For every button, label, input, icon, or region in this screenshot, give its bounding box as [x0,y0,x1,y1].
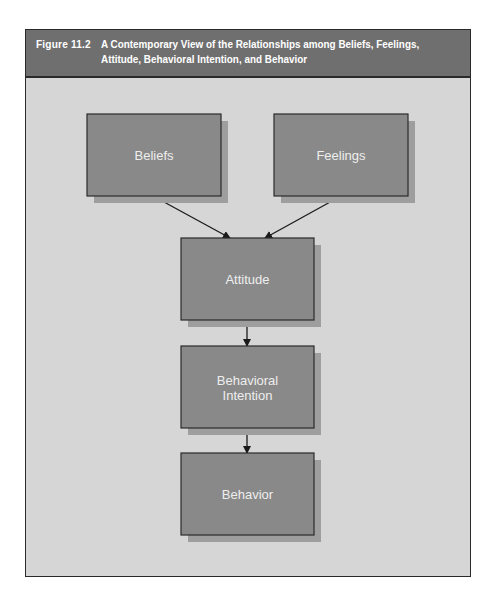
node-label: Feelings [316,148,366,163]
node-beliefs: Beliefs [87,114,228,203]
node-label: Behavioral [217,373,279,388]
node-attitude: Attitude [181,238,321,327]
node-feelings: Feelings [274,114,415,203]
node-behavior: Behavior [181,453,321,542]
node-intention: BehavioralIntention [181,346,321,435]
flow-diagram: BeliefsFeelingsAttitudeBehavioralIntenti… [0,0,495,608]
node-label: Behavior [222,487,274,502]
node-label: Attitude [225,272,269,287]
node-label: Intention [223,388,273,403]
node-label: Beliefs [134,148,174,163]
